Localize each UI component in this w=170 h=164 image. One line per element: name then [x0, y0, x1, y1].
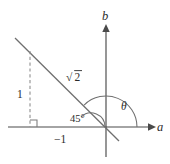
horizontal-leg-label: −1	[54, 133, 66, 145]
vertical-axis-arrowhead	[102, 24, 109, 32]
vertical-axis	[102, 24, 109, 157]
reference-angle-label: 45°	[70, 113, 85, 124]
vertical-leg-label: 1	[17, 88, 23, 100]
magnitude-label: √ 2	[66, 71, 82, 83]
theta-label: θ	[121, 100, 127, 112]
diagram-canvas: a b √ 2 1 −1 45° θ	[0, 0, 170, 164]
vector-diagram: a b √ 2 1 −1 45° θ	[0, 0, 170, 164]
radicand-value: 2	[75, 71, 81, 83]
horizontal-axis-arrowhead	[148, 123, 156, 130]
right-angle-marker	[30, 120, 37, 127]
theta-arc	[84, 96, 137, 127]
vertical-axis-label: b	[102, 9, 108, 23]
radical-symbol: √	[66, 71, 73, 83]
vector-line	[15, 38, 119, 141]
horizontal-axis-label: a	[157, 120, 163, 134]
